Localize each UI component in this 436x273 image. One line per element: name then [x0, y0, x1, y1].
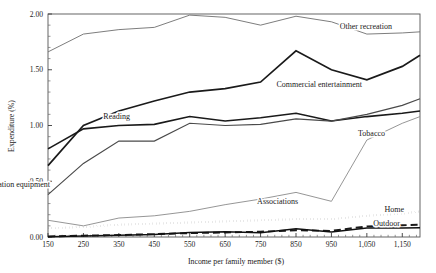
- series-label-other-recreation: Other recreation: [340, 22, 392, 31]
- series-label-commercial-entertainment: Commercial entertainment: [276, 80, 362, 89]
- y-tick-label: 0.00: [30, 233, 43, 242]
- x-tick-label: 950: [326, 240, 338, 249]
- x-tick-label: 350: [113, 240, 125, 249]
- series-label-reading: Reading: [103, 112, 130, 121]
- y-axis-ticks: [48, 14, 52, 237]
- y-axis-tick-labels: 0.000.501.001.502.00: [30, 10, 43, 242]
- x-tick-label: 650: [219, 240, 231, 249]
- series-line-other-recreation: [48, 15, 420, 52]
- series-label-home: Home: [384, 205, 404, 214]
- series-line-associations: [48, 211, 420, 228]
- x-tick-label: 1,050: [358, 240, 375, 249]
- x-axis-tick-labels: 1502503504505506507508509501,0501,150: [42, 240, 411, 249]
- series-label-outdoor: Outdoor: [373, 219, 400, 228]
- series-line-outdoor: [48, 228, 420, 237]
- series-inline-labels: Other recreationOther recreationCommerci…: [0, 22, 404, 228]
- y-tick-label: 1.00: [30, 121, 43, 130]
- x-tick-label: 450: [149, 240, 161, 249]
- x-tick-label: 850: [290, 240, 302, 249]
- series-label-tobacco: Tobacco: [358, 129, 385, 138]
- chart-container: 0.000.501.001.502.00 1502503504505506507…: [0, 0, 436, 273]
- series-line-commercial-entertainment: [48, 51, 420, 166]
- x-tick-label: 750: [255, 240, 267, 249]
- series-label-recreation-equipment: Recreation equipment: [0, 180, 51, 189]
- y-axis-title: Expenditure (%): [7, 100, 16, 152]
- series-lines: [48, 15, 420, 237]
- x-tick-label: 150: [42, 240, 54, 249]
- series-label-associations: Associations: [257, 197, 298, 206]
- x-tick-label: 550: [184, 240, 196, 249]
- expenditure-line-chart: 0.000.501.001.502.00 1502503504505506507…: [0, 0, 436, 273]
- series-line-home: [48, 225, 420, 237]
- y-tick-label: 2.00: [30, 10, 43, 19]
- x-tick-label: 1,150: [394, 240, 411, 249]
- x-axis-title: Income per family member ($): [188, 257, 285, 266]
- y-tick-label: 1.50: [30, 65, 43, 74]
- x-tick-label: 250: [78, 240, 90, 249]
